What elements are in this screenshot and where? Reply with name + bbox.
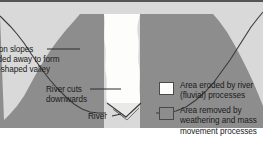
valley-floor-fill (107, 103, 140, 116)
legend-label-weathering-line1: Area removed by (180, 106, 242, 115)
annotation-river: River (88, 112, 107, 122)
annotation-river-cuts: River cuts downwards (46, 85, 87, 105)
legend-item-weathering: Area removed by weathering and mass move… (159, 106, 263, 137)
legend-label-fluvial: Area eroded by river (fluvial) processes (180, 81, 253, 102)
legend-label-weathering-line2: weathering and mass (180, 116, 257, 125)
annotation-river-cuts-line1: River cuts (46, 85, 87, 95)
valley-diagram-figure: il on slopes oded away to form V-shaped … (0, 0, 263, 153)
legend-label-weathering-line3: movement processes (180, 127, 257, 136)
legend-label-fluvial-line2: (fluvial) processes (180, 91, 245, 100)
legend-swatch-fluvial-icon (159, 82, 174, 95)
legend-label-fluvial-line1: Area eroded by river (180, 81, 253, 90)
river-leader-line (112, 114, 121, 116)
annotation-slopes-line1: il on slopes (0, 45, 60, 55)
annotation-river-cuts-line2: downwards (46, 95, 87, 105)
annotation-slopes-line2: oded away to form (0, 55, 60, 65)
annotation-slopes: il on slopes oded away to form V-shaped … (0, 45, 60, 76)
legend-swatch-weathering-icon (159, 107, 174, 120)
legend-label-weathering: Area removed by weathering and mass move… (180, 106, 257, 137)
fluvial-erosion-channel (104, 14, 140, 103)
annotation-slopes-line3: V-shaped valley (0, 65, 60, 75)
legend: Area eroded by river (fluvial) processes… (159, 81, 263, 141)
legend-item-fluvial: Area eroded by river (fluvial) processes (159, 81, 263, 102)
